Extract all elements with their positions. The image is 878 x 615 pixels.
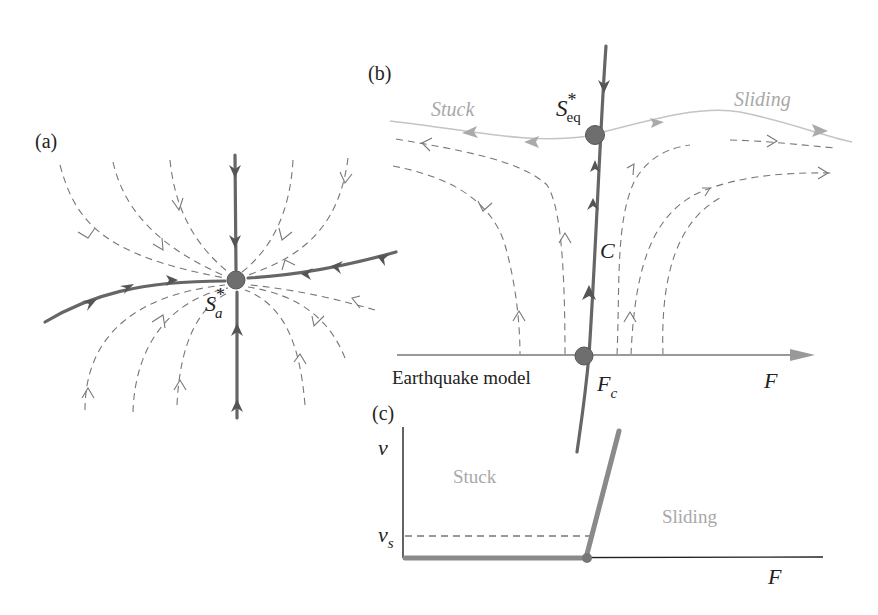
panel-c-label: (c) [372, 402, 394, 425]
f-axis-c-label: F [767, 564, 782, 589]
sliding-label: Sliding [734, 88, 791, 111]
slow-manifold-left [45, 281, 225, 322]
flow-line [245, 158, 348, 276]
panel-c: (c) v vs F Stuck Sliding [372, 402, 823, 589]
flow-line [730, 140, 836, 148]
flow-line [248, 287, 345, 358]
f-axis-label: F [763, 368, 778, 393]
open-arrow-icon [352, 296, 360, 308]
open-arrow-icon [152, 315, 165, 328]
panel-b-label: (b) [368, 62, 391, 85]
critical-point-fc [575, 347, 593, 365]
open-arrow-icon [153, 238, 163, 250]
open-arrow-icon [78, 228, 95, 238]
fixed-point-seq [586, 126, 605, 145]
v-axis-label: v [378, 435, 388, 460]
open-arrow-icon [627, 164, 634, 175]
open-arrow-icon [422, 138, 432, 151]
flow-line [396, 139, 565, 355]
open-arrow-icon [340, 172, 352, 183]
f-axis-arrow-icon [790, 349, 815, 361]
transition-point [582, 553, 592, 563]
open-arrow-icon [282, 260, 295, 270]
panel-b: (b) Stuck Sliding [368, 46, 852, 452]
fixed-point-seq-label: S*eq [556, 90, 581, 125]
panel-a-label: (a) [35, 130, 57, 153]
flow-line [170, 160, 228, 272]
arrow-head-icon [301, 268, 313, 280]
friction-law-curve [405, 431, 619, 558]
critical-point-fc-label: Fc [596, 371, 617, 401]
open-arrow-icon [174, 380, 186, 390]
stuck-label: Stuck [431, 98, 475, 120]
flow-line [663, 198, 720, 355]
curve-c-label: C [600, 238, 615, 263]
flow-line [245, 290, 305, 405]
open-arrow-icon [767, 135, 777, 147]
arrow-head-icon [650, 118, 664, 128]
arrow-head-icon [82, 299, 97, 311]
fixed-point-sa-label: S*a [205, 285, 225, 321]
flow-line [617, 145, 690, 355]
open-arrow-icon [478, 201, 492, 211]
flow-line [60, 165, 225, 278]
slow-manifold-right [248, 252, 396, 278]
flow-line [113, 162, 225, 276]
figure-canvas: (a) [0, 0, 878, 615]
flow-line [85, 285, 225, 410]
open-arrow-icon [294, 354, 306, 364]
open-arrow-icon [279, 228, 292, 240]
panel-b-flow-arrows [422, 135, 828, 322]
fixed-point-sa [227, 271, 245, 289]
open-arrow-icon [82, 388, 94, 398]
flow-line [393, 166, 520, 355]
vs-label: vs [378, 522, 394, 551]
open-arrow-icon [513, 311, 525, 321]
sliding-region-label: Sliding [662, 506, 717, 527]
flow-line [242, 160, 293, 272]
panel-a: (a) [35, 130, 396, 418]
earthquake-model-label: Earthquake model [392, 367, 531, 388]
stuck-region-label: Stuck [453, 466, 497, 487]
flow-line [631, 173, 834, 355]
